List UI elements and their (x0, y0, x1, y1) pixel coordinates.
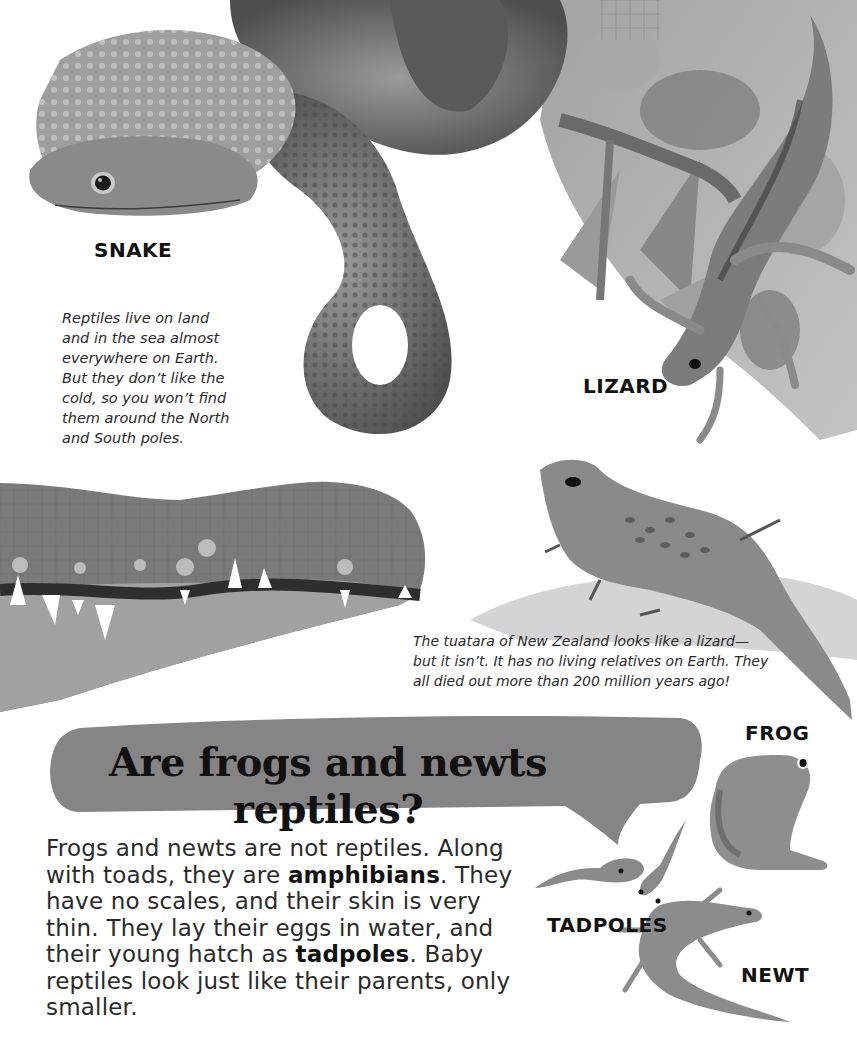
body-paragraph: Frogs and newts are not reptiles. Along … (46, 835, 526, 1021)
lizard-eye-icon (689, 359, 701, 369)
newt-label: NEWT (741, 963, 809, 987)
caption-line: cold, so you won’t find (62, 388, 262, 408)
caption-line: them around the North (62, 408, 262, 428)
tuatara-eye-icon (565, 477, 581, 487)
frog-eye-icon (800, 759, 807, 767)
caption-line: The tuatara of New Zealand looks like a … (413, 631, 833, 651)
snake-label: SNAKE (94, 238, 172, 262)
tadpoles-label: TADPOLES (547, 913, 668, 937)
newt-illustration (620, 890, 790, 1022)
caption-line: But they don’t like the (62, 368, 262, 388)
term-tadpoles: tadpoles (295, 941, 409, 967)
lizard-label: LIZARD (583, 374, 668, 398)
caption-line: and in the sea almost (62, 328, 262, 348)
tuatara-caption: The tuatara of New Zealand looks like a … (413, 631, 833, 691)
caption-line: all died out more than 200 million years… (413, 671, 833, 691)
caption-line: and South poles. (62, 428, 262, 448)
caption-line: but it isn’t. It has no living relatives… (413, 651, 833, 671)
reptile-habitat-caption: Reptiles live on land and in the sea alm… (62, 308, 262, 448)
frog-illustration (710, 755, 828, 870)
section-heading: Are frogs and newts reptiles? (68, 738, 588, 832)
caption-line: Reptiles live on land (62, 308, 262, 328)
term-amphibians: amphibians (288, 862, 440, 888)
frog-label: FROG (745, 721, 809, 745)
crocodile-jaw-illustration (0, 482, 425, 712)
caption-line: everywhere on Earth. (62, 348, 262, 368)
